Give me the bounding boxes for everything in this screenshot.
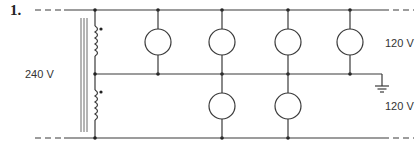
polarity-dot-icon xyxy=(99,90,102,93)
lower-lamp-1 xyxy=(209,74,235,138)
upper-lamp-2 xyxy=(209,10,235,74)
lamp-icon xyxy=(275,93,301,119)
upper-secondary-voltage-label: 120 V xyxy=(385,37,414,49)
polarity-dot-icon xyxy=(99,27,102,30)
lamp-icon xyxy=(209,29,235,55)
lower-lamp-2 xyxy=(275,74,301,138)
lamp-icon xyxy=(337,29,363,55)
primary-voltage-label: 240 V xyxy=(25,68,54,80)
lamp-icon xyxy=(209,93,235,119)
upper-lamp-3 xyxy=(275,10,301,74)
lamp-icon xyxy=(275,29,301,55)
secondary-winding-lower xyxy=(95,74,103,138)
upper-lamp-1 xyxy=(145,10,171,74)
ground-icon xyxy=(375,74,389,92)
secondary-winding-upper xyxy=(95,10,103,74)
transformer-core xyxy=(81,18,87,132)
lamp-icon xyxy=(145,29,171,55)
lower-secondary-voltage-label: 120 V xyxy=(385,100,414,112)
upper-lamp-4 xyxy=(337,10,363,74)
circuit-diagram xyxy=(0,0,415,146)
